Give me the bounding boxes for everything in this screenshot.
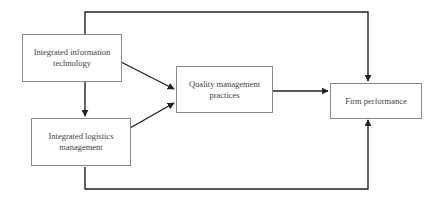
edge-ilm-to-qmp	[130, 103, 174, 128]
node-label: Integrated information technology	[29, 47, 115, 69]
node-label: Integrated logistics management	[38, 131, 124, 153]
node-integrated-logistics-management: Integrated logistics management	[31, 118, 131, 166]
node-integrated-information-technology: Integrated information technology	[22, 34, 122, 82]
diagram-canvas: Integrated information technology Integr…	[0, 0, 443, 202]
node-quality-management-practices: Quality management practices	[176, 66, 273, 113]
node-label: Quality management practices	[183, 79, 266, 101]
node-label: Firm performance	[345, 96, 407, 107]
node-firm-performance: Firm performance	[330, 83, 422, 119]
edge-iit-to-qmp	[121, 62, 174, 89]
